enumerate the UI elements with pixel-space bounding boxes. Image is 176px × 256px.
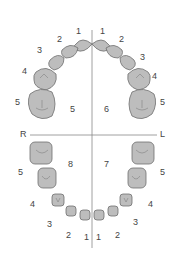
lower-left-tooth-label: 2 — [115, 231, 120, 240]
upper-right-tooth-label: 2 — [57, 35, 62, 44]
upper-left-tooth-label: 5 — [160, 98, 165, 107]
lower-right-tooth-label: 4 — [30, 200, 35, 209]
quadrant-label-upper-left: 6 — [104, 105, 109, 114]
tooth-upper-left-3 — [120, 55, 135, 70]
dental-arch-diagram — [0, 0, 176, 256]
quadrant-label-upper-right: 5 — [70, 105, 75, 114]
tooth-lower-right-2 — [66, 206, 76, 216]
upper-right-tooth-label: 1 — [76, 27, 81, 36]
lower-right-teeth — [30, 142, 90, 220]
upper-left-teeth — [92, 40, 156, 119]
tooth-lower-left-1 — [94, 210, 104, 220]
lower-right-tooth-label: 2 — [66, 231, 71, 240]
tooth-upper-right-2 — [62, 45, 79, 58]
lower-right-tooth-label: 1 — [84, 233, 89, 242]
tooth-upper-right-5 — [28, 89, 55, 118]
upper-left-tooth-label: 3 — [140, 53, 145, 62]
quadrant-label-lower-right: 8 — [68, 160, 73, 169]
tooth-lower-left-2 — [108, 206, 118, 216]
lower-left-tooth-label: 5 — [160, 168, 165, 177]
lower-left-tooth-label: 4 — [148, 200, 153, 209]
lower-right-tooth-label: 5 — [18, 168, 23, 177]
axis-label-right: R — [20, 130, 27, 139]
tooth-upper-right-3 — [49, 55, 64, 70]
tooth-upper-left-5 — [129, 89, 156, 118]
tooth-upper-right-4 — [34, 68, 57, 90]
tooth-lower-right-3 — [52, 194, 64, 206]
lower-right-tooth-label: 3 — [47, 220, 52, 229]
upper-right-tooth-label: 5 — [15, 98, 20, 107]
tooth-lower-right-1 — [80, 210, 90, 220]
tooth-lower-left-3 — [120, 194, 132, 206]
tooth-upper-left-4 — [128, 68, 151, 90]
tooth-upper-left-2 — [106, 45, 123, 58]
upper-right-tooth-label: 3 — [37, 46, 42, 55]
lower-left-teeth — [94, 142, 154, 220]
upper-left-tooth-label: 2 — [119, 35, 124, 44]
tooth-lower-left-4 — [128, 168, 146, 188]
axis-label-left: L — [160, 130, 165, 139]
upper-left-tooth-label: 4 — [152, 72, 157, 81]
lower-left-tooth-label: 1 — [96, 233, 101, 242]
lower-left-tooth-label: 3 — [133, 218, 138, 227]
upper-right-tooth-label: 4 — [22, 67, 27, 76]
quadrant-label-lower-left: 7 — [104, 160, 109, 169]
tooth-lower-right-4 — [38, 168, 56, 188]
upper-left-tooth-label: 1 — [100, 27, 105, 36]
